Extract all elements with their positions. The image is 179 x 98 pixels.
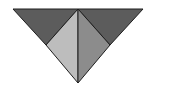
folded-triangle-diagram [0,0,179,98]
